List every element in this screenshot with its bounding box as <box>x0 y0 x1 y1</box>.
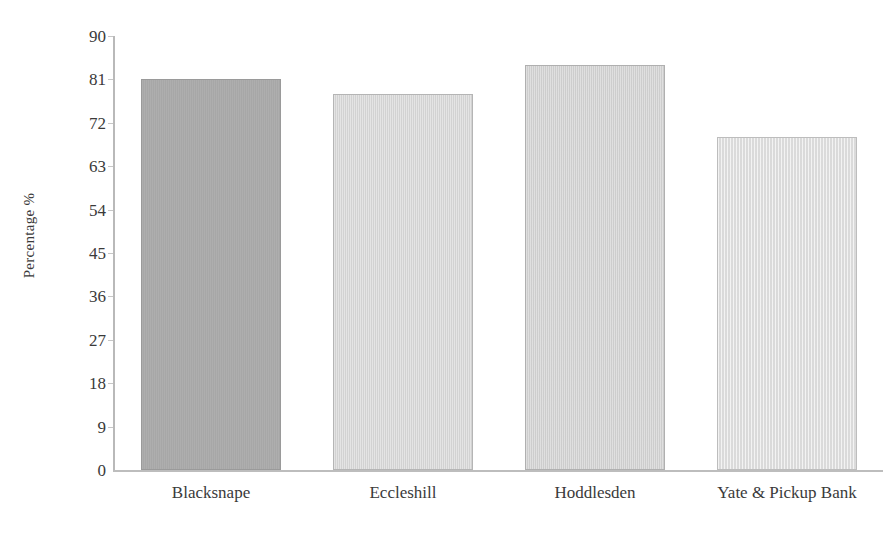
x-axis-tick-label: Hoddlesden <box>554 482 635 504</box>
y-axis-tick-label: 27 <box>52 331 106 348</box>
plot-area <box>115 36 883 470</box>
y-axis-tick-mark <box>108 383 113 384</box>
x-axis-tick-label: Blacksnape <box>172 482 250 504</box>
y-axis-tick-mark <box>108 427 113 428</box>
y-axis-tick-label: 63 <box>52 158 106 175</box>
y-axis-tick-label: 72 <box>52 114 106 131</box>
y-axis-tick-mark <box>108 36 113 37</box>
y-axis-tick-mark <box>108 79 113 80</box>
x-axis-tick-labels: BlacksnapeEccleshillHoddlesdenYate & Pic… <box>115 482 883 522</box>
y-axis-tick-mark <box>108 166 113 167</box>
x-axis-tick-label: Yate & Pickup Bank <box>717 482 856 504</box>
y-axis-tick-label: 18 <box>52 375 106 392</box>
y-axis-tick-label: 9 <box>52 418 106 435</box>
y-axis-tick-label: 0 <box>52 462 106 479</box>
y-axis-tick-label: 45 <box>52 245 106 262</box>
y-axis-tick-label: 54 <box>52 201 106 218</box>
y-axis-tick-mark <box>108 340 113 341</box>
y-axis-title-text: Percentage % <box>22 192 39 278</box>
bar-1[interactable] <box>141 79 281 470</box>
bar-4[interactable] <box>717 137 857 470</box>
bar-chart: Percentage % 09182736455463728190 Blacks… <box>0 0 895 533</box>
y-axis-tick-mark <box>108 123 113 124</box>
y-axis-title: Percentage % <box>0 0 60 470</box>
y-axis-tick-label: 90 <box>52 28 106 45</box>
y-axis-tick-labels: 09182736455463728190 <box>52 0 106 533</box>
y-axis-tick-label: 81 <box>52 71 106 88</box>
x-axis-line <box>113 470 883 472</box>
bar-3[interactable] <box>525 65 665 470</box>
y-axis-tick-mark <box>108 296 113 297</box>
bar-2[interactable] <box>333 94 473 470</box>
y-axis-tick-mark <box>108 253 113 254</box>
x-axis-tick-label: Eccleshill <box>369 482 436 504</box>
y-axis-tick-mark <box>108 210 113 211</box>
y-axis-tick-label: 36 <box>52 288 106 305</box>
